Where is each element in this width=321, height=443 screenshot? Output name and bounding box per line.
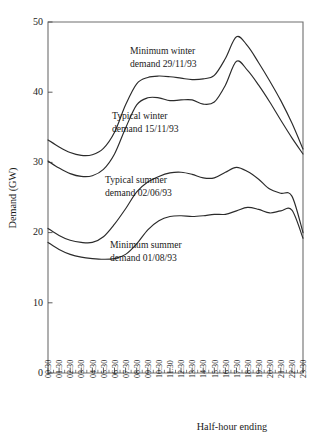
annot-minimum-summer-line2: demand 01/08/93 <box>110 252 177 263</box>
annot-typical-summer-line2: demand 02/06/93 <box>105 187 172 198</box>
annot-typical-summer: Typical summerdemand 02/06/93 <box>105 174 172 198</box>
x-tick-label-0: 00.30 <box>44 360 53 378</box>
annot-minimum-summer: Minimum summerdemand 01/08/93 <box>110 239 182 263</box>
chart-canvas: 01020304050 00.3001.3002.3003.3004.3005.… <box>0 0 321 443</box>
annot-minimum-winter: Minimum winterdemand 29/11/93 <box>130 45 197 69</box>
x-tick-label-12: 12.30 <box>177 360 186 378</box>
x-tick-label-18: 18.30 <box>244 360 253 378</box>
x-tick-label-6: 06.30 <box>111 360 120 378</box>
x-tick-label-11: 11.30 <box>166 360 175 378</box>
x-tick-label-23: 23.30 <box>299 360 308 378</box>
x-tick-label-22: 22.30 <box>288 360 297 378</box>
annot-minimum-winter-line1: Minimum winter <box>130 45 196 56</box>
y-tick-label-0: 0 <box>38 367 43 378</box>
annot-minimum-winter-line2: demand 29/11/93 <box>130 58 197 69</box>
x-tick-label-13: 13.30 <box>188 360 197 378</box>
y-tick-label-30: 30 <box>33 156 43 167</box>
x-tick-label-10: 10.30 <box>155 360 164 378</box>
annot-minimum-summer-line1: Minimum summer <box>110 239 182 250</box>
y-axis-title: Demand (GW) <box>7 168 19 229</box>
annot-typical-winter-line1: Typical winter <box>112 110 168 121</box>
x-tick-label-15: 15.30 <box>211 360 220 378</box>
x-tick-label-2: 02.30 <box>66 360 75 378</box>
x-tick-label-19: 19.30 <box>255 360 264 378</box>
annot-typical-summer-line1: Typical summer <box>105 174 168 185</box>
x-tick-label-7: 07.30 <box>122 360 131 378</box>
x-axis-title: Half-hour ending <box>197 421 267 432</box>
x-tick-label-20: 20.30 <box>266 360 275 378</box>
y-tick-label-20: 20 <box>33 226 43 237</box>
x-tick-label-5: 05.30 <box>100 360 109 378</box>
demand-profile-chart: 01020304050 00.3001.3002.3003.3004.3005.… <box>0 0 321 443</box>
x-tick-label-17: 17.30 <box>233 360 242 378</box>
y-tick-label-40: 40 <box>33 86 43 97</box>
x-tick-label-3: 03.30 <box>77 360 86 378</box>
x-tick-label-4: 04.30 <box>89 360 98 378</box>
y-tick-label-10: 10 <box>33 297 43 308</box>
x-tick-label-14: 14.30 <box>199 360 208 378</box>
x-tick-label-9: 09.30 <box>144 360 153 378</box>
x-tick-label-1: 01.30 <box>55 360 64 378</box>
x-tick-label-16: 16.30 <box>222 360 231 378</box>
annot-typical-winter-line2: demand 15/11/93 <box>112 123 179 134</box>
y-tick-label-50: 50 <box>33 16 43 27</box>
x-tick-label-8: 08.30 <box>133 360 142 378</box>
x-tick-label-21: 21.30 <box>277 360 286 378</box>
